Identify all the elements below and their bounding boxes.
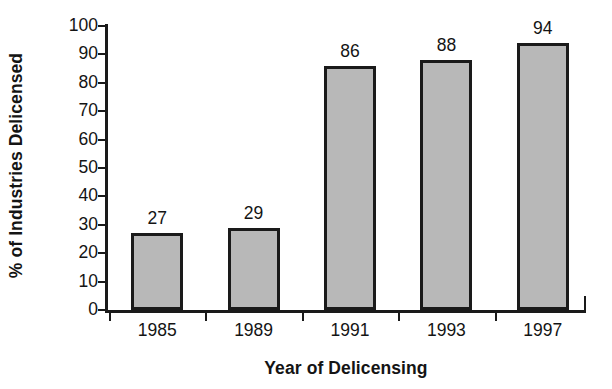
y-axis-tick-label: 0 — [40, 301, 98, 319]
y-axis-tick-mark — [98, 224, 106, 226]
x-axis-tick-mark — [398, 312, 400, 321]
x-axis-tick-label: 1997 — [498, 322, 588, 340]
bar-fill — [423, 63, 469, 307]
bar-value-label: 86 — [320, 43, 380, 61]
bar-fill — [231, 231, 277, 307]
bar-chart-figure: % of Industries Delicensed 0102030405060… — [0, 0, 612, 389]
bar — [131, 233, 183, 310]
y-axis-tick-mark — [98, 195, 106, 197]
x-axis-tick-label: 1993 — [401, 322, 491, 340]
bar-value-label: 27 — [127, 210, 187, 228]
bar — [324, 66, 376, 310]
y-axis-tick-mark — [98, 139, 106, 141]
y-axis-tick-label: 10 — [40, 273, 98, 291]
bar-fill — [134, 236, 180, 307]
y-axis-tick-mark — [98, 309, 106, 311]
y-axis-tick-mark — [98, 281, 106, 283]
y-axis-tick-label: 20 — [40, 244, 98, 262]
y-axis-tick-mark — [98, 252, 106, 254]
x-axis-tick-label: 1991 — [305, 322, 395, 340]
bar-fill — [327, 69, 373, 307]
y-axis-title-text: % of Industries Delicensed — [7, 52, 28, 277]
x-axis-line — [105, 310, 586, 313]
bar — [517, 43, 569, 310]
x-axis-end-tick — [584, 296, 586, 312]
x-axis-tick-mark — [109, 312, 111, 321]
x-axis-tick-mark — [302, 312, 304, 321]
x-axis-tick-mark — [205, 312, 207, 321]
y-axis-tick-label: 90 — [40, 46, 98, 64]
bar-fill — [520, 46, 566, 307]
y-axis-tick-mark — [98, 110, 106, 112]
bar-value-label: 29 — [224, 205, 284, 223]
bar-value-label: 94 — [513, 20, 573, 38]
bar — [228, 228, 280, 310]
bar — [420, 60, 472, 310]
y-axis-tick-mark — [98, 53, 106, 55]
y-axis-tick-label: 40 — [40, 188, 98, 206]
y-axis-tick-labels: 0102030405060708090100 — [40, 26, 98, 310]
x-axis-tick-label: 1989 — [209, 322, 299, 340]
y-axis-tick-label: 70 — [40, 102, 98, 120]
x-axis-tick-labels: 19851989199119931997 — [105, 322, 587, 348]
x-axis-tick-mark — [495, 312, 497, 321]
y-axis-tick-label: 60 — [40, 131, 98, 149]
y-axis-tick-mark — [98, 82, 106, 84]
y-axis-tick-label: 100 — [40, 17, 98, 35]
plot-area: 2729868894 — [105, 26, 587, 310]
y-axis-tick-label: 50 — [40, 159, 98, 177]
y-axis-tick-mark — [98, 25, 106, 27]
y-axis-tick-mark — [98, 167, 106, 169]
y-axis-tick-label: 80 — [40, 74, 98, 92]
x-axis-tick-label: 1985 — [112, 322, 202, 340]
y-axis-title: % of Industries Delicensed — [0, 0, 34, 330]
bar-value-label: 88 — [416, 37, 476, 55]
x-axis-title: Year of Delicensing — [105, 358, 587, 379]
y-axis-tick-label: 30 — [40, 216, 98, 234]
